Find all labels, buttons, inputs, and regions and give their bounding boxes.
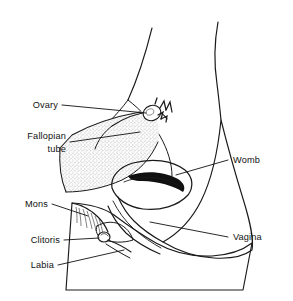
leader-womb (176, 160, 228, 175)
label-vagina: Vagina (233, 232, 263, 242)
leader-ovary (62, 105, 146, 113)
label-mons: Mons (25, 199, 48, 209)
label-clitoris: Clitoris (31, 235, 61, 245)
anatomy-diagram: Ovary Fallopian tube Mons Clitoris Labia… (0, 0, 293, 301)
vagina-canal (108, 197, 163, 254)
label-ovary: Ovary (33, 100, 59, 110)
anatomy-illustration: Ovary Fallopian tube Mons Clitoris Labia… (0, 0, 293, 301)
mons-pubis (72, 203, 108, 234)
label-fallopian-tube-line1: Fallopian (27, 131, 66, 141)
leader-vagina (150, 222, 228, 237)
label-fallopian-tube-line2: tube (48, 144, 66, 154)
label-womb: Womb (233, 155, 260, 165)
label-labia: Labia (31, 260, 55, 270)
labia-folds (106, 240, 131, 258)
